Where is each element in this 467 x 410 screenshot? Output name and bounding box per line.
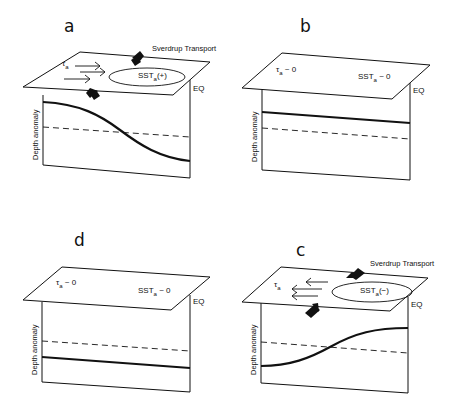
- wind-stress-label: τa: [274, 280, 281, 289]
- y-axis-label: Depth anomaly: [249, 325, 258, 375]
- panel-d-label: d: [74, 230, 85, 250]
- sverdrup-transport-label: Sverdrup Transport: [152, 44, 216, 53]
- panel-a: a Sverdrup Transport τa SSTa(+) EQ Depth…: [0, 0, 233, 205]
- eq-label: EQ: [193, 84, 205, 93]
- panel-a-graphic: [0, 0, 233, 205]
- panel-d: d τa ~ 0 SSTa ~ 0 EQ Depth anomaly: [0, 200, 233, 405]
- panel-a-label: a: [64, 16, 74, 36]
- eq-label: EQ: [193, 297, 205, 306]
- wind-stress-label: τa: [62, 59, 69, 68]
- panel-b: b τa ~ 0 SSTa ~ 0 EQ Depth anomaly: [230, 0, 463, 205]
- sst-anomaly-label: SSTa ~ 0: [138, 286, 170, 295]
- sst-anomaly-label: SSTa(−): [360, 286, 389, 295]
- sst-anomaly-label: SSTa(+): [138, 71, 167, 80]
- eq-label: EQ: [413, 86, 425, 95]
- y-axis-label: Depth anomaly: [250, 112, 259, 162]
- panel-c-label: c: [296, 240, 305, 260]
- panel-c-graphic: [230, 200, 467, 410]
- eq-label: EQ: [411, 300, 423, 309]
- sverdrup-transport-label: Sverdrup Transport: [370, 259, 434, 268]
- panel-b-graphic: [230, 0, 467, 205]
- wind-stress-label: τa ~ 0: [276, 65, 296, 74]
- y-axis-label: Depth anomaly: [31, 110, 40, 160]
- panel-c: c Sverdrup Transport τa SSTa(−) EQ Depth…: [230, 200, 463, 405]
- panel-b-label: b: [300, 16, 311, 36]
- y-axis-label: Depth anomaly: [30, 325, 39, 375]
- wind-stress-label: τa ~ 0: [56, 278, 76, 287]
- sst-anomaly-label: SSTa ~ 0: [358, 72, 390, 81]
